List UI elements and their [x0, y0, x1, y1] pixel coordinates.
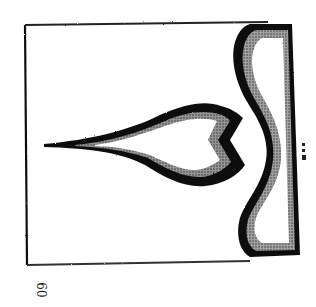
- leaf-shape: [44, 103, 245, 186]
- wavy-shape: [233, 24, 300, 257]
- side-marks: [300, 140, 308, 164]
- page-number: 60: [34, 282, 48, 297]
- hand-drawn-figure: [0, 0, 316, 307]
